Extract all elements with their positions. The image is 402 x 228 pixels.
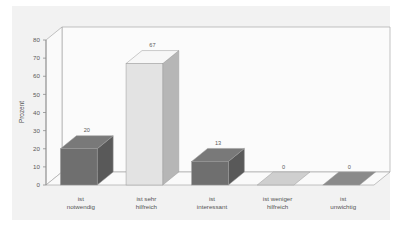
y-tick-label: 60	[33, 72, 40, 79]
bar-chart: 01020304050607080 Prozent 20671300 istno…	[0, 0, 402, 228]
y-tick-label: 0	[37, 181, 41, 188]
y-tick-label: 50	[33, 91, 40, 98]
category-label: ist sehrhilfreich	[136, 195, 158, 210]
y-axis-title: Prozent	[18, 101, 25, 123]
bar-value-label: 20	[84, 127, 90, 133]
bar	[60, 136, 113, 185]
y-tick-label: 20	[33, 145, 40, 152]
category-label-line: interessant	[197, 203, 228, 210]
bar-value-label: 0	[348, 164, 351, 170]
category-label-line: hilfreich	[136, 203, 158, 210]
category-label: ist wenigerhilfreich	[263, 195, 293, 210]
y-axis: 01020304050607080 Prozent	[18, 36, 46, 188]
category-label-line: ist	[209, 195, 215, 202]
category-labels-group: istnotwendigist sehrhilfreichistinteress…	[67, 195, 357, 210]
y-tick-label: 70	[33, 54, 40, 61]
category-label: istnotwendig	[67, 195, 96, 210]
category-label-line: ist weniger	[263, 195, 293, 202]
category-label-line: notwendig	[67, 203, 96, 210]
bar-value-label: 13	[215, 140, 221, 146]
bar	[126, 51, 179, 185]
y-tick-label: 30	[33, 127, 40, 134]
category-label-line: ist	[340, 195, 346, 202]
category-label-line: unwichtig	[330, 203, 356, 210]
category-label-line: hilfreich	[267, 203, 289, 210]
bar-value-label: 67	[149, 42, 155, 48]
category-label-line: ist sehr	[136, 195, 156, 202]
y-tick-label: 40	[33, 109, 40, 116]
y-tick-label: 80	[33, 36, 40, 43]
y-tick-group: 01020304050607080	[33, 36, 46, 188]
bar-value-label: 0	[282, 164, 285, 170]
y-tick-label: 10	[33, 163, 40, 170]
left-wall	[46, 27, 62, 185]
chart-svg: 01020304050607080 Prozent 20671300 istno…	[0, 0, 402, 228]
category-label: istunwichtig	[330, 195, 356, 210]
category-label: istinteressant	[197, 195, 228, 210]
category-label-line: ist	[78, 195, 84, 202]
